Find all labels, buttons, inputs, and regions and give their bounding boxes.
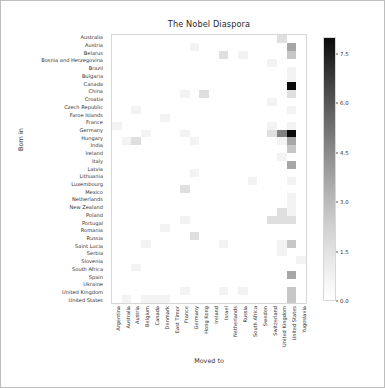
heatmap-cell [160, 287, 170, 295]
heatmap-cell [122, 90, 132, 98]
heatmap-cell [248, 106, 258, 114]
x-axis-tick-slot: Argentina [111, 305, 121, 351]
heatmap-cell [112, 35, 122, 43]
x-axis-tick-label: Yugoslavia [302, 306, 307, 333]
heatmap-cell [248, 35, 258, 43]
heatmap-cell [141, 248, 151, 256]
heatmap-cell [180, 201, 190, 209]
heatmap-cell [257, 256, 267, 264]
heatmap-cell [112, 193, 122, 201]
heatmap-cell [141, 295, 151, 303]
heatmap-cell [248, 98, 258, 106]
heatmap-cell [287, 177, 297, 185]
heatmap-cell [190, 240, 200, 248]
heatmap-cell [296, 74, 306, 82]
heatmap-cell [219, 137, 229, 145]
heatmap-cell [122, 240, 132, 248]
heatmap-cell [267, 67, 277, 75]
heatmap-cell [131, 51, 141, 59]
heatmap-cell [296, 122, 306, 130]
heatmap-cell [248, 232, 258, 240]
heatmap-cell [219, 201, 229, 209]
heatmap-cell [180, 232, 190, 240]
heatmap-cell [267, 59, 277, 67]
heatmap-cell [141, 264, 151, 272]
heatmap-cell [267, 106, 277, 114]
heatmap-cell [296, 59, 306, 67]
heatmap-cell [219, 256, 229, 264]
heatmap-cell [267, 145, 277, 153]
heatmap-cell [228, 201, 238, 209]
heatmap-cell [209, 279, 219, 287]
heatmap-cell [296, 35, 306, 43]
heatmap-cell [170, 161, 180, 169]
heatmap-cell [267, 137, 277, 145]
heatmap-cell [209, 232, 219, 240]
x-axis-tick-slot: Austria [131, 305, 141, 351]
heatmap-cell [257, 35, 267, 43]
heatmap-cell [277, 153, 287, 161]
heatmap-cell [180, 169, 190, 177]
heatmap-cell [219, 74, 229, 82]
heatmap-cell [287, 232, 297, 240]
heatmap-cell [131, 43, 141, 51]
heatmap-cell [257, 185, 267, 193]
heatmap-cell [141, 74, 151, 82]
heatmap-cell [190, 216, 200, 224]
heatmap-cell [238, 256, 248, 264]
heatmap-cell [257, 43, 267, 51]
heatmap-cell [228, 98, 238, 106]
heatmap-cell [267, 90, 277, 98]
heatmap-cell [248, 169, 258, 177]
heatmap-cell [267, 232, 277, 240]
heatmap-cell [122, 122, 132, 130]
heatmap-cell [219, 35, 229, 43]
heatmap-cell [141, 185, 151, 193]
heatmap-cell [228, 216, 238, 224]
heatmap-cell [190, 161, 200, 169]
heatmap-cell [160, 43, 170, 51]
heatmap-cell [228, 295, 238, 303]
heatmap-cell [122, 98, 132, 106]
heatmap-cell [277, 177, 287, 185]
colorbar-tick-mark [336, 103, 338, 104]
heatmap-cell [219, 248, 229, 256]
heatmap-cell [228, 169, 238, 177]
heatmap-cell [122, 264, 132, 272]
y-axis-tick-label: South Africa [1, 266, 107, 274]
heatmap-cell [141, 43, 151, 51]
heatmap-cell [170, 201, 180, 209]
heatmap-cell [267, 264, 277, 272]
heatmap-cell [180, 177, 190, 185]
heatmap-cell [190, 122, 200, 130]
heatmap-cell [180, 98, 190, 106]
heatmap-cell [277, 122, 287, 130]
heatmap-cell [199, 256, 209, 264]
heatmap-cell [277, 98, 287, 106]
heatmap-cell [219, 90, 229, 98]
heatmap-cell [296, 82, 306, 90]
heatmap-cell [257, 240, 267, 248]
heatmap-cell [180, 161, 190, 169]
heatmap-cell [141, 90, 151, 98]
heatmap-cell [296, 98, 306, 106]
colorbar-tick-labels: 0.01.53.04.56.07.5 [338, 37, 368, 301]
heatmap-cell [160, 90, 170, 98]
heatmap-cell [170, 43, 180, 51]
heatmap-cell [238, 193, 248, 201]
heatmap-cell [228, 185, 238, 193]
heatmap-cell [296, 90, 306, 98]
heatmap-cell [277, 201, 287, 209]
heatmap-cell [131, 169, 141, 177]
heatmap-cell [190, 256, 200, 264]
heatmap-cell [180, 185, 190, 193]
heatmap-cell [238, 43, 248, 51]
heatmap-cell [209, 145, 219, 153]
heatmap-cell [287, 193, 297, 201]
heatmap-cell [238, 295, 248, 303]
heatmap-cell [257, 122, 267, 130]
heatmap-cell [180, 271, 190, 279]
heatmap-cell [112, 287, 122, 295]
heatmap-cell [219, 208, 229, 216]
heatmap-cell [112, 240, 122, 248]
